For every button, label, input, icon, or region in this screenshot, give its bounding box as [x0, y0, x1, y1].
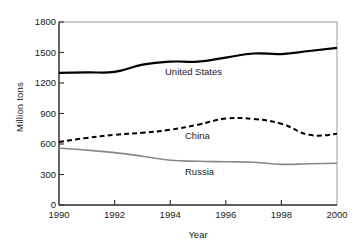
series-label-china: China: [183, 130, 212, 141]
axis-frame: [59, 22, 337, 205]
series-label-united-states: United States: [163, 66, 224, 77]
series-label-russia: Russia: [183, 166, 216, 177]
plot-area: [0, 0, 360, 250]
series-line-russia: [59, 148, 337, 164]
line-chart: Million tons 1800150012009006003000 1990…: [0, 0, 360, 250]
tick-marks: [59, 22, 281, 205]
